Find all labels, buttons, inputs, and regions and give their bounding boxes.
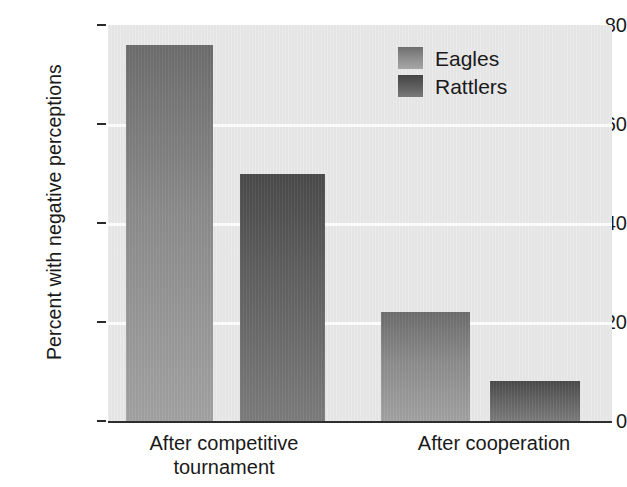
legend-item-eagles: Eagles [398,44,507,72]
bar-eagles-after-cooperation [381,312,470,421]
legend-swatch-eagles-icon [398,47,423,69]
legend-label-eagles: Eagles [435,48,499,69]
legend-item-rattlers: Rattlers [398,72,507,100]
y-tick-mark-60 [97,123,106,125]
y-tick-mark-20 [97,321,106,323]
bar-rattlers-after-competitive-tournament [240,174,325,422]
y-tick-mark-40 [97,222,106,224]
y-tick-mark-0 [97,420,106,422]
legend-label-rattlers: Rattlers [435,76,507,97]
plot-area [108,25,612,421]
y-axis-title: Percent with negative perceptions [43,2,69,422]
x-tick-label-after-cooperation: After cooperation [382,431,606,455]
legend: Eagles Rattlers [398,44,507,100]
x-tick-label-after-competitive-tournament: After competitive tournament [108,431,340,480]
bar-eagles-after-competitive-tournament [126,45,213,421]
bar-rattlers-after-cooperation [490,381,580,421]
legend-swatch-rattlers-icon [398,75,423,97]
x-axis-line [108,421,612,423]
bar-chart-figure: Percent with negative perceptions 80 60 … [0,0,627,487]
y-tick-mark-80 [97,24,106,26]
